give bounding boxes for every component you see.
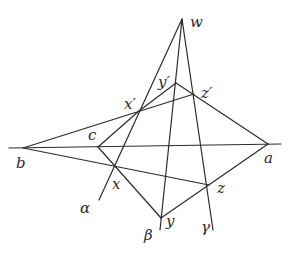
label-z: z xyxy=(216,179,225,197)
label-y: y xyxy=(165,212,175,230)
label-w: w xyxy=(190,13,203,31)
label-a: a xyxy=(264,149,273,167)
line-a-y xyxy=(161,144,268,218)
label-gamma: γ xyxy=(201,218,210,236)
segments-group xyxy=(9,19,281,230)
line-a-yprime xyxy=(176,83,268,144)
line-ba-axis xyxy=(9,144,281,148)
line-gamma xyxy=(182,19,213,230)
line-beta xyxy=(160,19,182,230)
diagram-svg: w a b c x y z x′ y′ z′ α β γ xyxy=(0,0,289,270)
label-beta: β xyxy=(143,226,153,244)
label-b: b xyxy=(16,154,26,172)
labels-group: w a b c x y z x′ y′ z′ α β γ xyxy=(16,13,273,244)
line-c-xprime xyxy=(98,111,139,147)
label-c: c xyxy=(88,126,97,144)
label-x: x xyxy=(112,175,121,193)
desargues-diagram: w a b c x y z x′ y′ z′ α β γ xyxy=(0,0,289,270)
label-y-prime: y′ xyxy=(157,73,170,91)
line-b-xprime-zprime xyxy=(23,94,194,148)
label-alpha: α xyxy=(80,199,90,217)
label-z-prime: z′ xyxy=(200,84,213,102)
label-x-prime: x′ xyxy=(124,95,136,113)
